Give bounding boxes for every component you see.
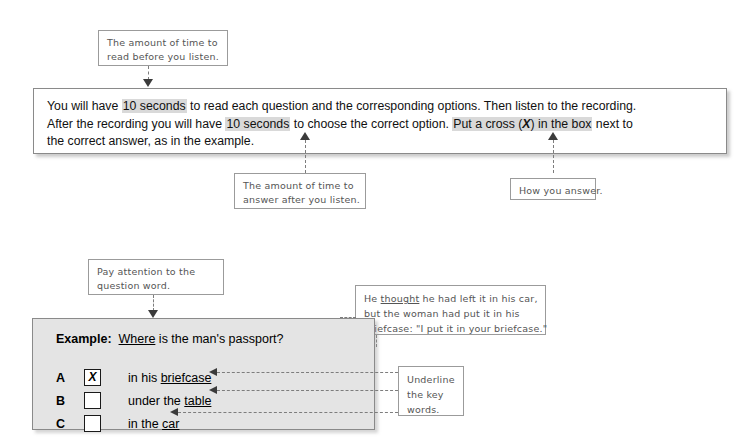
quote-line-1-b: he had left it in his car, (419, 293, 537, 304)
quote-underlined-word: thought (381, 293, 420, 304)
connector-option-c (178, 412, 398, 413)
callout-read-time-line2: read before you listen. (107, 50, 220, 64)
callout-how-you-answer: How you answer. (510, 178, 596, 200)
option-a-checkbox[interactable]: X (84, 369, 101, 386)
connector-question-word (153, 295, 154, 311)
instruction-line-3: the correct answer, as in the example. (47, 133, 714, 151)
instr-cross-b: ) in the box (531, 117, 592, 131)
option-a-keyword: briefcase (161, 371, 212, 385)
option-c-checkbox[interactable] (84, 415, 101, 432)
instr-seg5: next to (592, 117, 632, 131)
callout-read-time-line1: The amount of time to (107, 36, 220, 50)
callout-question-word-line1: Pay attention to the (97, 265, 216, 279)
connector-quote-vertical (376, 335, 377, 347)
callout-how-you-answer-line1: How you answer. (519, 184, 588, 198)
callout-answer-time: The amount of time to answer after you l… (234, 173, 366, 209)
quote-line-1-a: He (364, 293, 381, 304)
arrow-how-you-answer (548, 132, 558, 140)
quote-line-1: He thought he had left it in his car, (364, 291, 538, 306)
example-label: Example: (56, 332, 112, 346)
option-b-letter: B (56, 394, 65, 408)
instr-seg1: You will have (47, 99, 122, 113)
instr-highlight-how-answer: Put a cross (X) in the box (452, 117, 592, 131)
option-a-text: in his briefcase (128, 371, 211, 385)
option-c-text-before: in the (128, 417, 162, 431)
option-b-keyword: table (184, 394, 211, 408)
option-row-b[interactable]: B under the table (56, 391, 356, 412)
callout-question-word: Pay attention to the question word. (88, 259, 224, 295)
instr-highlight-read-time: 10 seconds (122, 99, 187, 113)
option-b-checkbox[interactable] (84, 392, 101, 409)
option-c-text: in the car (128, 417, 179, 431)
arrow-option-a (209, 368, 217, 376)
connector-how-you-answer (553, 140, 554, 173)
instr-cross-a: Put a cross ( (453, 117, 522, 131)
callout-answer-time-line1: The amount of time to (243, 179, 358, 193)
instr-seg6: the correct answer, as in the example. (47, 134, 254, 148)
arrow-question-word (148, 310, 158, 318)
instruction-line-1: You will have 10 seconds to read each qu… (47, 98, 714, 116)
connector-option-a (217, 372, 398, 373)
connector-read-time (148, 66, 149, 80)
instr-seg3: After the recording you will have (47, 117, 225, 131)
option-a-text-before: in his (128, 371, 161, 385)
option-c-letter: C (56, 417, 65, 431)
cross-x-glyph: X (522, 117, 530, 131)
arrow-read-time (143, 79, 153, 87)
arrow-option-b (209, 386, 217, 394)
callout-read-time: The amount of time to read before you li… (98, 30, 228, 66)
example-question-rest: is the man's passport? (155, 332, 283, 346)
example-question: Example: Where is the man's passport? (56, 332, 284, 346)
arrow-answer-time (300, 132, 310, 140)
example-panel: Example: Where is the man's passport? A … (32, 318, 375, 430)
quote-line-2: but the woman had put it in his (364, 306, 538, 321)
option-c-keyword: car (162, 417, 179, 431)
instr-highlight-answer-time: 10 seconds (225, 117, 290, 131)
connector-option-b (217, 390, 398, 391)
callout-question-word-line2: question word. (97, 279, 216, 293)
instruction-panel: You will have 10 seconds to read each qu… (33, 88, 727, 154)
example-question-word: Where (119, 332, 156, 346)
callout-recording-quote: He thought he had left it in his car, bu… (355, 285, 546, 335)
quote-line-3: briefcase: "I put it in your briefcase." (364, 321, 538, 336)
callout-underline-keywords: Underline the key words. (398, 366, 464, 416)
option-b-text: under the table (128, 394, 211, 408)
instruction-line-2: After the recording you will have 10 sec… (47, 116, 714, 134)
option-b-text-before: under the (128, 394, 184, 408)
instr-seg4: to choose the correct option. (290, 117, 452, 131)
callout-underline-line2: the key (407, 387, 456, 402)
connector-answer-time (305, 140, 306, 173)
instr-seg2: to read each question and the correspond… (187, 99, 637, 113)
option-row-c[interactable]: C in the car (56, 414, 356, 435)
callout-underline-line3: words. (407, 402, 456, 417)
arrow-option-c (170, 408, 178, 416)
callout-answer-time-line2: answer after you listen. (243, 193, 358, 207)
option-a-letter: A (56, 371, 65, 385)
callout-underline-line1: Underline (407, 372, 456, 387)
